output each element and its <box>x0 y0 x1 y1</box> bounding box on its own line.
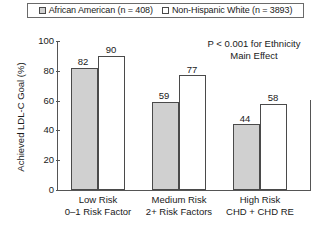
bar-value-medium-risk-non-hispanic-white: 77 <box>177 65 207 75</box>
x-group-label-medium-risk-line2: 2+ Risk Factors <box>146 206 212 217</box>
bar-value-medium-risk-african-american: 59 <box>149 91 179 101</box>
y-axis-title: Achieved LDL-C Goal (%) <box>16 42 26 192</box>
bar-value-low-risk-non-hispanic-white: 90 <box>96 45 126 55</box>
bar-value-high-risk-non-hispanic-white: 58 <box>258 93 288 103</box>
x-group-label-low-risk-line1: Low Risk <box>79 194 118 205</box>
x-group-label-high-risk-line1: High Risk <box>240 194 281 205</box>
x-group-label-medium-risk-line1: Medium Risk <box>152 194 207 205</box>
y-tick-100: 100 <box>30 36 54 46</box>
y-tick-20: 20 <box>30 155 54 165</box>
x-group-label-high-risk-line2: CHD + CHD RE <box>226 206 294 217</box>
bar-value-high-risk-african-american: 44 <box>230 114 260 124</box>
bar-low-risk-non-hispanic-white <box>98 56 125 190</box>
x-group-label-high-risk: High Risk CHD + CHD RE <box>212 194 308 218</box>
x-group-label-low-risk-line2: 0–1 Risk Factor <box>65 206 132 217</box>
bar-medium-risk-non-hispanic-white <box>179 75 206 190</box>
right-axis-line <box>310 100 311 191</box>
bar-high-risk-african-american <box>233 124 260 190</box>
y-axis-line <box>57 42 58 191</box>
annotation-line1: P < 0.001 for Ethnicity <box>207 38 300 49</box>
y-tick-80: 80 <box>30 66 54 76</box>
bar-medium-risk-african-american <box>152 102 179 190</box>
bar-high-risk-non-hispanic-white <box>260 104 287 190</box>
x-axis-line <box>57 190 311 191</box>
bar-low-risk-african-american <box>71 68 98 190</box>
y-axis-tick-labels: 0 20 40 60 80 100 <box>26 0 54 227</box>
annotation-line2: Main Effect <box>230 50 277 61</box>
bar-value-low-risk-african-american: 82 <box>68 57 98 67</box>
y-tick-40: 40 <box>30 125 54 135</box>
bar-chart-plot: Achieved LDL-C Goal (%) 0 20 40 60 80 10… <box>0 0 331 227</box>
statistics-annotation: P < 0.001 for Ethnicity Main Effect <box>190 38 318 61</box>
y-tick-60: 60 <box>30 96 54 106</box>
